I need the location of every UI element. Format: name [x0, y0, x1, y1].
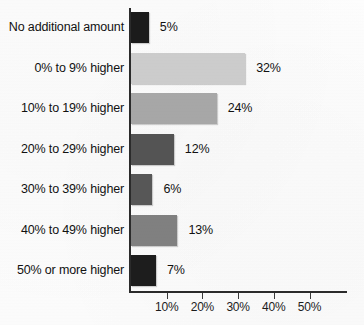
bar-row: 40% to 49% higher13%	[0, 215, 364, 246]
bar	[131, 215, 177, 246]
bar-value-label: 7%	[167, 255, 185, 286]
category-label: 10% to 19% higher	[0, 93, 124, 124]
bar-row: 10% to 19% higher24%	[0, 93, 364, 124]
bar-row: 20% to 29% higher12%	[0, 134, 364, 165]
bar	[131, 255, 156, 286]
category-label: 0% to 9% higher	[0, 53, 124, 84]
category-label: 30% to 39% higher	[0, 174, 124, 205]
bar	[131, 12, 149, 43]
bar-row: 30% to 39% higher6%	[0, 174, 364, 205]
bar-value-label: 5%	[160, 12, 178, 43]
bar-row: 0% to 9% higher32%	[0, 53, 364, 84]
x-tick-mark	[310, 293, 311, 299]
x-tick-mark	[274, 293, 275, 299]
bar-value-label: 12%	[185, 134, 210, 165]
category-label: No additional amount	[0, 12, 124, 43]
bar	[131, 174, 152, 205]
bar-value-label: 6%	[163, 174, 181, 205]
category-label: 50% or more higher	[0, 255, 124, 286]
plot-area: No additional amount5%0% to 9% higher32%…	[0, 0, 364, 325]
bar-value-label: 32%	[256, 53, 281, 84]
bar-row: No additional amount5%	[0, 12, 364, 43]
x-tick-label: 50%	[288, 300, 332, 314]
x-tick-mark	[202, 293, 203, 299]
bar	[131, 93, 217, 124]
x-tick-mark	[238, 293, 239, 299]
bar-row: 50% or more higher7%	[0, 255, 364, 286]
bar	[131, 53, 245, 84]
category-label: 40% to 49% higher	[0, 215, 124, 246]
bar-value-label: 13%	[188, 215, 213, 246]
x-tick-mark	[167, 293, 168, 299]
bar-chart: No additional amount5%0% to 9% higher32%…	[0, 0, 364, 325]
bar	[131, 134, 174, 165]
category-label: 20% to 29% higher	[0, 134, 124, 165]
bar-value-label: 24%	[228, 93, 253, 124]
